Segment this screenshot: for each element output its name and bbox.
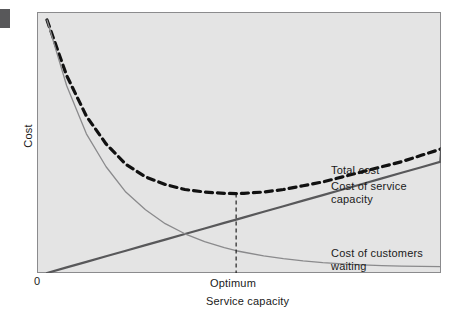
page-edge-block — [0, 9, 10, 28]
series-group — [47, 20, 441, 273]
chart-plot-area — [37, 12, 441, 273]
origin-label: 0 — [34, 275, 40, 287]
y-axis-label: Cost — [22, 106, 34, 166]
series-label-cost-of-service-capacity: Cost of service capacity — [331, 180, 407, 206]
series-label-cost-of-customers-waiting: Cost of customers waiting — [331, 247, 423, 273]
series-label-total-cost: Total cost — [331, 164, 379, 177]
leader-line — [440, 148, 441, 162]
figure-container: Cost 0 Optimum Service capacity Total co… — [0, 0, 454, 332]
x-axis-label: Service capacity — [206, 295, 289, 307]
optimum-label: Optimum — [210, 277, 256, 289]
